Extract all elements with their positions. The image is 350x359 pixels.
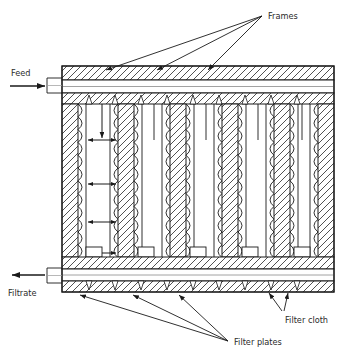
top-header-hatch-band [62, 66, 334, 80]
top-header-assembly [62, 66, 334, 104]
feed-label: Feed [11, 68, 31, 78]
riser-4 [242, 247, 258, 257]
filter-press-diagram: Feed Filtrate Frames Filter cloth Filter… [0, 0, 350, 359]
filtrate-label: Filtrate [8, 288, 37, 298]
filter-plate-2 [118, 104, 134, 257]
riser-1 [86, 247, 102, 257]
filter-plate-5 [274, 104, 290, 257]
bottom-header-upper-band [62, 257, 334, 269]
filter-plate-6 [318, 104, 334, 257]
riser-2 [138, 247, 154, 257]
filter-press-figure: Feed Filtrate Frames Filter cloth Filter… [0, 0, 350, 359]
filter-plate-1 [62, 104, 78, 257]
riser-5 [294, 247, 310, 257]
filter-cloth-label: Filter cloth [285, 315, 328, 325]
top-header-lower-band [62, 93, 334, 104]
frames-label: Frames [268, 11, 298, 21]
filter-plates-label: Filter plates [234, 337, 282, 347]
filter-plate-4 [222, 104, 238, 257]
filter-plate-3 [170, 104, 186, 257]
riser-3 [190, 247, 206, 257]
bottom-header-lower-band [62, 281, 334, 292]
